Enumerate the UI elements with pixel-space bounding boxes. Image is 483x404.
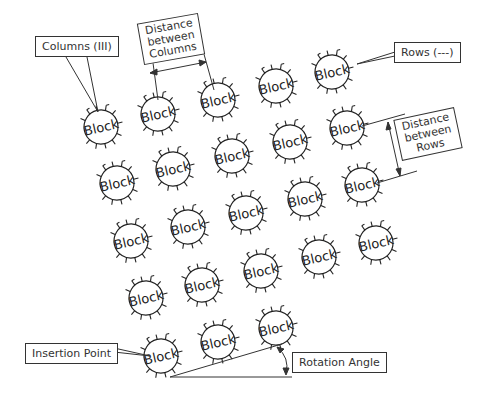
block-instance: Block	[325, 102, 374, 154]
block-instance: Block	[136, 88, 185, 140]
insertion-point-label: Insertion Point	[25, 343, 118, 364]
block-instance: Block	[180, 259, 229, 311]
block-instance: Block	[283, 173, 332, 225]
block-instance: Block	[239, 245, 288, 297]
block-instance: Block	[224, 187, 273, 239]
block-grid: BlockBlockBlockBlockBlockBlockBlockBlock…	[79, 46, 403, 382]
block-instance: Block	[166, 201, 215, 253]
rotation-angle-label: Rotation Angle	[292, 352, 387, 373]
block-instance: Block	[151, 143, 200, 195]
block-instance: Block	[297, 231, 346, 283]
columns-label: Columns (III)	[35, 36, 119, 57]
block-instance: Block	[196, 316, 245, 368]
block-instance: Block	[79, 101, 128, 153]
block-instance: Block	[124, 272, 173, 324]
block-instance: Block	[310, 46, 359, 98]
rows-leader	[357, 52, 395, 64]
block-instance: Block	[196, 74, 245, 126]
block-instance: Block	[109, 215, 158, 267]
block-instance: Block	[254, 60, 303, 112]
block-instance: Block	[95, 157, 144, 209]
block-instance: Block	[268, 116, 317, 168]
block-instance: Block	[210, 130, 259, 182]
rows-label: Rows (---)	[394, 42, 461, 63]
block-instance: Block	[354, 217, 403, 269]
columns-leader	[66, 57, 98, 112]
block-instance: Block	[340, 159, 389, 211]
